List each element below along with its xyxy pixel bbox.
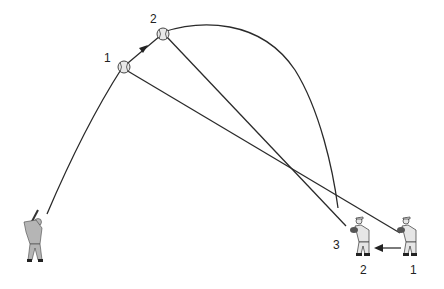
glove-icon	[350, 227, 358, 233]
glove-icon	[397, 227, 405, 233]
sightline-1-to-ball-1	[126, 70, 400, 233]
left-arrow-icon	[374, 244, 383, 252]
batter-figure	[24, 210, 43, 262]
trajectory-diagram: 1 2 3 2 1	[0, 0, 444, 289]
ball-trajectory-curve	[47, 68, 122, 214]
sightline-2-to-ball-2	[166, 36, 346, 226]
baseball-icon-1	[118, 61, 130, 73]
fielder-position-1	[397, 217, 417, 256]
fielder-label-1: 1	[410, 263, 417, 277]
fielder-label-2: 2	[360, 263, 367, 277]
ball-label-1: 1	[104, 51, 111, 65]
fielder-position-2	[350, 217, 370, 256]
ball-label-2: 2	[150, 12, 157, 26]
baseball-icon-2	[157, 28, 169, 40]
sightline-end-label-3: 3	[333, 238, 340, 252]
